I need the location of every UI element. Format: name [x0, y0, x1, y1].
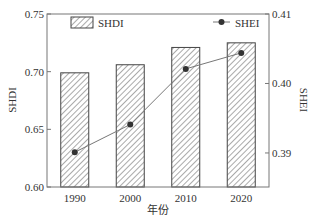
line-shei: [72, 50, 245, 155]
x-tick-label: 2010: [175, 192, 198, 204]
y-tick-label: 0.75: [25, 8, 45, 20]
x-tick-label: 1990: [64, 192, 87, 204]
shei-point-2000: [127, 121, 133, 127]
legend-shei: SHEI: [213, 17, 260, 29]
legend-shei-label: SHEI: [235, 17, 260, 29]
x-axis: 1990200020102020: [64, 192, 253, 204]
legend-shei-marker-icon: [219, 19, 225, 25]
x-tick-label: 2000: [119, 192, 142, 204]
bar-1990: [61, 73, 89, 187]
y2-axis-label: SHEI: [298, 88, 310, 113]
y2-tick-label: 0.39: [272, 147, 292, 159]
legend-shdi: SHDI: [71, 17, 124, 29]
y2-tick-label: 0.40: [272, 77, 292, 89]
x-tick-label: 2020: [230, 192, 253, 204]
bar-2020: [227, 43, 255, 187]
y-axis-label: SHDI: [6, 87, 18, 113]
y-tick-label: 0.65: [25, 123, 45, 135]
shei-point-1990: [72, 149, 78, 155]
y2-tick-label: 0.41: [272, 8, 291, 20]
y-tick-label: 0.60: [25, 181, 45, 193]
chart: 0.600.650.700.75 0.390.400.41 1990200020…: [0, 0, 313, 223]
shei-point-2010: [183, 66, 189, 72]
bars-shdi: [61, 43, 256, 187]
shei-line: [75, 53, 242, 152]
legend-shdi-label: SHDI: [98, 17, 124, 29]
legend-shdi-swatch: [71, 17, 93, 28]
y-tick-label: 0.70: [25, 66, 45, 78]
chart-svg: 0.600.650.700.75 0.390.400.41 1990200020…: [0, 0, 313, 223]
x-axis-label: 年份: [147, 203, 169, 216]
shei-point-2020: [238, 50, 244, 56]
